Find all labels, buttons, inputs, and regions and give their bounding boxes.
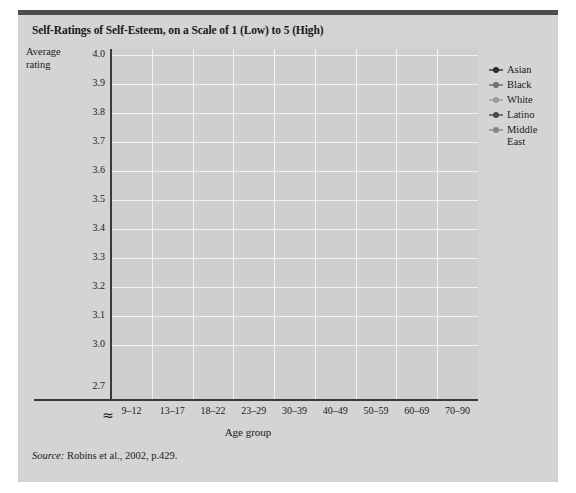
figure-container: Self-Ratings of Self-Esteem, on a Scale …	[18, 10, 558, 482]
grid-line-vertical	[396, 49, 397, 399]
grid-line	[111, 229, 478, 230]
legend-label: White	[505, 92, 533, 107]
x-tick-label: 70–90	[428, 405, 488, 416]
grid-line	[111, 316, 478, 317]
x-axis-line	[34, 399, 478, 401]
x-axis-label-text: Age group	[225, 426, 272, 438]
y-tick-label: 3.5	[75, 193, 105, 204]
grid-line	[111, 258, 478, 259]
source-prefix: Source:	[32, 450, 64, 461]
y-tick-label: 3.9	[75, 77, 105, 88]
legend-marker-icon	[488, 77, 505, 92]
legend-label-continuation: East	[488, 135, 558, 149]
plot-background	[111, 49, 478, 399]
legend-marker-icon	[488, 92, 505, 107]
y-tick-label: 3.8	[75, 106, 105, 117]
source-text: Robins et al., 2002, p.429.	[67, 450, 178, 461]
legend-label: Latino	[505, 107, 534, 122]
y-tick-label: 3.2	[75, 280, 105, 291]
chart-page: Self-Ratings of Self-Esteem, on a Scale …	[0, 0, 576, 493]
grid-line-vertical	[437, 49, 438, 399]
legend-item-black[interactable]: Black	[488, 77, 558, 92]
grid-line	[111, 345, 478, 346]
legend-marker-icon	[488, 62, 505, 77]
grid-line-vertical	[274, 49, 275, 399]
grid-line	[111, 113, 478, 114]
grid-line	[111, 287, 478, 288]
chart-legend: Asian Black White Latino Middle East	[488, 62, 558, 149]
y-axis-label-line2: rating	[26, 59, 84, 72]
grid-line	[111, 84, 478, 85]
y-tick-label: 3.7	[75, 135, 105, 146]
grid-line-vertical	[152, 49, 153, 399]
grid-line-vertical	[233, 49, 234, 399]
legend-item-latino[interactable]: Latino	[488, 107, 558, 122]
legend-label: Black	[505, 77, 532, 92]
grid-line	[111, 200, 478, 201]
figure-top-bar	[18, 10, 558, 15]
grid-line	[111, 55, 478, 56]
y-tick-label: 2.7	[75, 380, 105, 391]
source-note: Source: Robins et al., 2002, p.429.	[32, 450, 177, 461]
plot-area: 4.03.93.83.73.63.53.43.33.23.13.02.7 ≈ 9…	[97, 49, 478, 410]
y-axis-line	[110, 49, 112, 399]
grid-line-vertical	[193, 49, 194, 399]
legend-item-white[interactable]: White	[488, 92, 558, 107]
y-tick-label: 3.6	[75, 164, 105, 175]
y-tick-label: 3.3	[75, 251, 105, 262]
grid-line-vertical	[315, 49, 316, 399]
legend-marker-icon	[488, 107, 505, 122]
legend-item-asian[interactable]: Asian	[488, 62, 558, 77]
grid-line	[111, 171, 478, 172]
chart-title: Self-Ratings of Self-Esteem, on a Scale …	[32, 24, 324, 36]
y-tick-label: 3.0	[75, 338, 105, 349]
y-tick-label: 3.4	[75, 222, 105, 233]
y-tick-label: 3.1	[75, 309, 105, 320]
x-axis-label: Age group	[18, 426, 478, 438]
legend-label: Asian	[505, 62, 532, 77]
grid-line-vertical	[356, 49, 357, 399]
legend-marker-icon	[488, 122, 505, 137]
grid-line	[111, 142, 478, 143]
y-tick-label: 4.0	[75, 48, 105, 59]
